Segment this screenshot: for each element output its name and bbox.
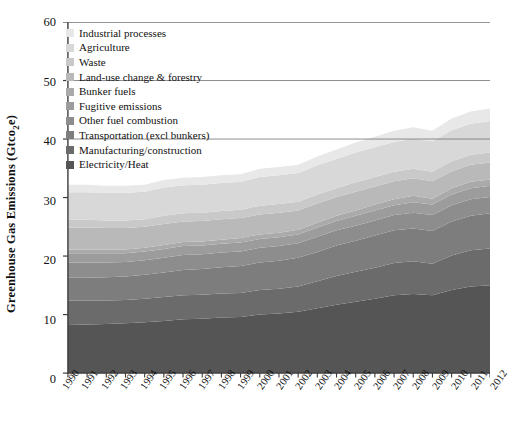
legend-label: Manufacturing/construction (79, 145, 202, 156)
chart-legend: Industrial processesAgricultureWasteLand… (66, 26, 316, 172)
legend-label: Agriculture (79, 42, 130, 53)
legend-item[interactable]: Industrial processes (66, 26, 316, 41)
y-tick-label: 30 (44, 193, 57, 208)
legend-label: Land-use change & forestry (79, 72, 202, 83)
y-tick-label: 60 (44, 15, 57, 30)
legend-swatch-icon (66, 88, 74, 96)
legend-swatch-icon (66, 102, 74, 110)
legend-item[interactable]: Manufacturing/construction (66, 143, 316, 158)
legend-label: Waste (79, 57, 106, 68)
legend-label: Other fuel combustion (79, 115, 178, 126)
y-axis-tick-labels: 0102030405060 (26, 0, 56, 428)
legend-item[interactable]: Transportation (excl bunkers) (66, 128, 316, 143)
x-tick-label: 2012 (488, 368, 509, 392)
legend-label: Transportation (excl bunkers) (79, 130, 209, 141)
y-axis-title: Greenhouse Gas Emissions (Gtco2e) (0, 0, 24, 428)
legend-item[interactable]: Agriculture (66, 41, 316, 56)
legend-label: Bunker fuels (79, 86, 136, 97)
legend-swatch-icon (66, 146, 74, 154)
legend-swatch-icon (66, 131, 74, 139)
legend-swatch-icon (66, 117, 74, 125)
y-tick-label: 10 (44, 312, 57, 327)
legend-item[interactable]: Bunker fuels (66, 84, 316, 99)
chart-figure: Greenhouse Gas Emissions (Gtco2e) 010203… (0, 0, 516, 428)
legend-item[interactable]: Other fuel combustion (66, 114, 316, 129)
legend-item[interactable]: Fugitive emissions (66, 99, 316, 114)
legend-swatch-icon (66, 29, 74, 37)
y-tick-label: 50 (44, 74, 57, 89)
legend-item[interactable]: Electricity/Heat (66, 157, 316, 172)
legend-swatch-icon (66, 73, 74, 81)
legend-item[interactable]: Waste (66, 55, 316, 70)
legend-swatch-icon (66, 161, 74, 169)
y-axis-title-text: Greenhouse Gas Emissions (Gtco2e) (4, 115, 21, 313)
legend-label: Industrial processes (79, 28, 166, 39)
y-tick-label: 40 (44, 134, 57, 149)
y-tick-label: 0 (50, 372, 56, 387)
legend-item[interactable]: Land-use change & forestry (66, 70, 316, 85)
legend-swatch-icon (66, 58, 74, 66)
legend-swatch-icon (66, 44, 74, 52)
legend-label: Fugitive emissions (79, 101, 162, 112)
legend-label: Electricity/Heat (79, 159, 149, 170)
y-tick-label: 20 (44, 253, 57, 268)
